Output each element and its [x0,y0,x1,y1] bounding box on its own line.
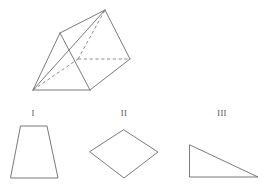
figure-container: I II III [0,0,265,187]
label-shape-iii: III [217,109,227,118]
shape-ii-rhombus [90,130,158,178]
prism-edge-front-top-to-bottom-right [60,33,90,90]
prism-hidden-edge-bottom-left-to-hidden-mid [33,59,78,90]
prism-edge-bottom-right-to-right-mid [90,59,130,90]
label-shape-ii: II [121,109,127,118]
cross-section-shapes [11,126,258,178]
prism-diagonal-bottom-left-to-back-apex [33,10,105,90]
label-shape-i: I [31,109,34,118]
geometry-figure [0,0,265,187]
prism-edge-front-top-to-bottom-left [33,33,60,90]
shape-iii-right-triangle [190,145,258,177]
prism-edge-back-apex-to-right-mid [105,10,130,59]
prism-solid-edges [33,10,130,90]
shape-i-trapezoid [11,126,58,178]
